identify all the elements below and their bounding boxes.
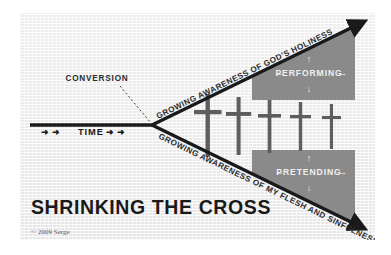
conversion-label: CONVERSION: [65, 74, 128, 83]
cross-group: [194, 94, 341, 157]
pretending-arrow-right: →: [338, 167, 347, 177]
time-arrow-right: ➜ ➜: [106, 127, 125, 137]
conversion-leader-line: [120, 86, 151, 123]
performing-arrow-right: →: [338, 68, 347, 78]
cross-2: [226, 97, 251, 155]
copyright-notice: © 2009 Serge: [31, 228, 70, 236]
performing-arrow-up: ↑: [307, 54, 312, 64]
cross-5: [322, 104, 341, 149]
cross-3: [258, 100, 281, 153]
performing-label: PERFORMING: [275, 68, 342, 78]
performing-arrow-down: ↓: [307, 84, 312, 94]
cross-4: [290, 102, 311, 151]
time-label: TIME: [78, 127, 104, 137]
pretending-arrow-up: ↑: [307, 153, 312, 163]
poster-title: SHRINKING THE CROSS: [31, 196, 271, 219]
pretending-label: PRETENDING: [276, 167, 341, 177]
pretending-arrow-down: ↓: [307, 183, 312, 193]
time-arrow-left: ➜ ➜: [41, 127, 60, 137]
poster-canvas: CONVERSION ➜ ➜ TIME ➜ ➜ GROWING AWARENES…: [0, 0, 391, 255]
